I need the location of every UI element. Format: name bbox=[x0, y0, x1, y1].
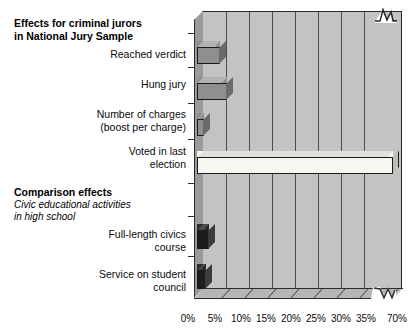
y-tick-2 bbox=[188, 103, 195, 104]
y-tick-1 bbox=[188, 67, 195, 68]
category-label-service-on-student-council: Service on student council bbox=[8, 268, 186, 293]
plot-right-edge bbox=[401, 11, 402, 289]
x-tick-label-10: 10% bbox=[231, 313, 251, 324]
x-tick-label-25: 25% bbox=[306, 313, 326, 324]
bar-service-on-student-council bbox=[197, 264, 206, 283]
category-label-voted-in-last-election: Voted in last election bbox=[8, 145, 186, 170]
y-tick-4 bbox=[188, 183, 195, 184]
x-tick-label-30: 30% bbox=[331, 313, 351, 324]
x-tick-label-15: 15% bbox=[256, 313, 276, 324]
y-tick-5 bbox=[188, 216, 195, 217]
y-tick-6 bbox=[188, 256, 195, 257]
bar-hung-jury bbox=[197, 77, 227, 94]
gridline-25 bbox=[318, 11, 319, 289]
bar-number-of-charges bbox=[197, 113, 204, 130]
y-tick-3 bbox=[188, 139, 195, 140]
comparison-effects-header: Comparison effects bbox=[14, 186, 194, 199]
category-label-number-of-charges: Number of charges (boost per charge) bbox=[8, 108, 186, 133]
y-tick-0 bbox=[188, 33, 195, 34]
category-label-hung-jury: Hung jury bbox=[8, 78, 186, 91]
category-label-reached-verdict: Reached verdict bbox=[8, 48, 186, 61]
comparison-effects-subheader: Civic educational activities in high sch… bbox=[14, 199, 194, 222]
gridline-35 bbox=[364, 11, 365, 289]
plot-back-wall bbox=[202, 11, 402, 289]
gridline-10 bbox=[249, 11, 250, 289]
gridline-5 bbox=[226, 11, 227, 289]
bar-voted-in-last-election bbox=[197, 151, 393, 168]
plot-floor-edge-front bbox=[194, 298, 394, 299]
gridline-15 bbox=[272, 11, 273, 289]
axis-break-top-icon bbox=[374, 7, 398, 23]
x-tick-label-5: 5% bbox=[208, 313, 222, 324]
bar-reached-verdict bbox=[197, 41, 220, 58]
x-tick-label-0: 0% bbox=[181, 313, 195, 324]
chart-title: Effects for criminal jurors in National … bbox=[14, 17, 194, 42]
gridline-20 bbox=[295, 11, 296, 289]
bar-full-length-civics-course bbox=[197, 224, 209, 243]
x-tick-label-35: 35% bbox=[356, 313, 376, 324]
chart-figure: Effects for criminal jurors in National … bbox=[0, 0, 414, 335]
gridline-30 bbox=[341, 11, 342, 289]
axis-break-bottom-icon bbox=[370, 287, 396, 305]
x-tick-label-70: 70% bbox=[387, 313, 407, 324]
x-tick-label-20: 20% bbox=[281, 313, 301, 324]
plot-area bbox=[194, 11, 402, 298]
category-label-full-length-civics-course: Full-length civics course bbox=[8, 228, 186, 253]
